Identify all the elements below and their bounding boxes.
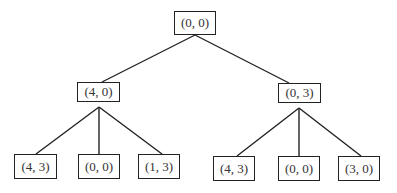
tree-node-left-right: (1, 3) (138, 154, 180, 179)
edge-l-lr (99, 107, 162, 154)
tree-node-right-right: (3, 0) (338, 156, 380, 181)
edge-r-rr (299, 108, 361, 156)
tree-node-right-left: (4, 3) (213, 156, 255, 181)
tree-node-left: (4, 0) (77, 82, 120, 102)
tree-node-root: (0, 0) (174, 11, 216, 35)
tree-node-right-middle: (0, 0) (278, 156, 320, 181)
edge-r-rl (237, 108, 299, 156)
edge-root-r (195, 35, 289, 83)
edge-root-l (102, 35, 195, 82)
edge-l-ll (36, 107, 99, 154)
tree-node-left-left: (4, 3) (14, 154, 57, 179)
tree-node-right: (0, 3) (278, 83, 321, 103)
tree-node-left-middle: (0, 0) (78, 154, 120, 179)
